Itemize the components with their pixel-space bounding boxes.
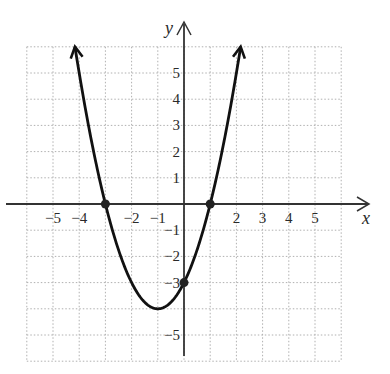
intercept-point [101, 200, 110, 209]
curve-end-arrows [71, 47, 245, 59]
y-tick-label: −1 [164, 222, 180, 238]
parabola-graph: x y −5−4−2−12345 54321−1−2−3−5 [0, 0, 390, 374]
intercept-point [180, 278, 189, 287]
x-axis-label: x [361, 208, 370, 228]
intercept-point [206, 200, 215, 209]
x-tick-label: −5 [45, 210, 61, 226]
y-tick-label: 2 [173, 144, 181, 160]
y-tick-label: 4 [173, 91, 181, 107]
x-tick-label: 3 [259, 210, 267, 226]
x-tick-label: 2 [233, 210, 241, 226]
y-tick-label: −2 [164, 248, 180, 264]
x-tick-label: −2 [124, 210, 140, 226]
y-tick-label: −5 [164, 327, 180, 343]
y-axis-label: y [163, 18, 173, 38]
x-tick-label: −4 [71, 210, 87, 226]
y-tick-label: 1 [173, 170, 181, 186]
x-tick-label: 4 [285, 210, 293, 226]
x-tick-labels: −5−4−2−12345 [45, 210, 319, 226]
y-tick-label: 3 [173, 117, 181, 133]
y-tick-label: −3 [164, 275, 180, 291]
y-tick-label: 5 [173, 65, 181, 81]
x-tick-label: 5 [311, 210, 319, 226]
